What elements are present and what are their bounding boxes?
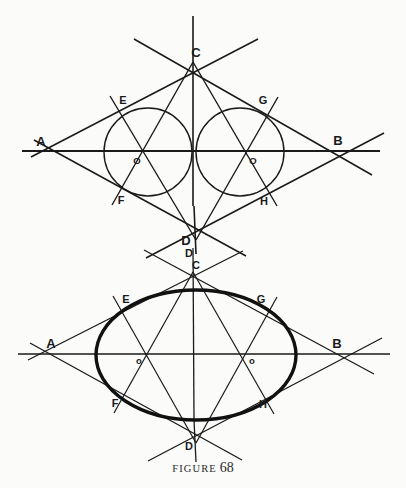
upper-label-F: F: [118, 194, 125, 206]
caption-word: FIGURE: [172, 463, 217, 474]
caption-number: 68: [220, 460, 234, 475]
lower-label-E: E: [122, 293, 129, 305]
lower-label-center-left: o: [136, 355, 142, 366]
lower-label-A: A: [46, 336, 56, 351]
lower-label-D: D: [185, 440, 193, 452]
lower-label-center-right: o: [249, 355, 255, 366]
lower-label-C: C: [192, 259, 200, 271]
upper-vertical-axis-lower: [194, 206, 196, 254]
upper-label-E: E: [119, 94, 126, 106]
lower-label-D-stray: D: [185, 247, 193, 259]
lower-line-AC: [28, 251, 243, 360]
upper-label-C: C: [191, 45, 201, 60]
figure-caption: FIGURE68: [0, 458, 406, 476]
upper-label-center-right: O: [249, 155, 256, 166]
upper-label-center-left: O: [133, 155, 140, 166]
upper-label-D: D: [181, 233, 190, 248]
upper-label-A: A: [36, 134, 46, 149]
upper-line-C-Oleft-H: [193, 62, 277, 206]
lower-diagram: A B C D D E F G H o o: [18, 247, 390, 462]
lower-line-CB: [144, 250, 374, 374]
upper-line-C-Oright-F: [112, 62, 193, 205]
upper-label-B: B: [333, 133, 342, 148]
upper-circle-right: [196, 108, 284, 196]
upper-label-G: G: [259, 94, 268, 106]
lower-label-F: F: [112, 397, 119, 409]
upper-diagram: A B C D E F G H O O: [22, 16, 384, 258]
lower-label-B: B: [332, 336, 341, 351]
upper-circle-left: [104, 108, 192, 196]
lower-label-G: G: [257, 293, 266, 305]
geometric-figure: A B C D E F G H O O: [0, 0, 406, 488]
lower-label-H: H: [259, 398, 267, 410]
upper-line-D-Oright-G: [196, 97, 278, 240]
figure-page: A B C D E F G H O O: [0, 0, 406, 488]
upper-label-H: H: [260, 195, 268, 207]
upper-line-D-Oleft-E: [110, 96, 196, 240]
upper-line-AC: [31, 39, 258, 157]
